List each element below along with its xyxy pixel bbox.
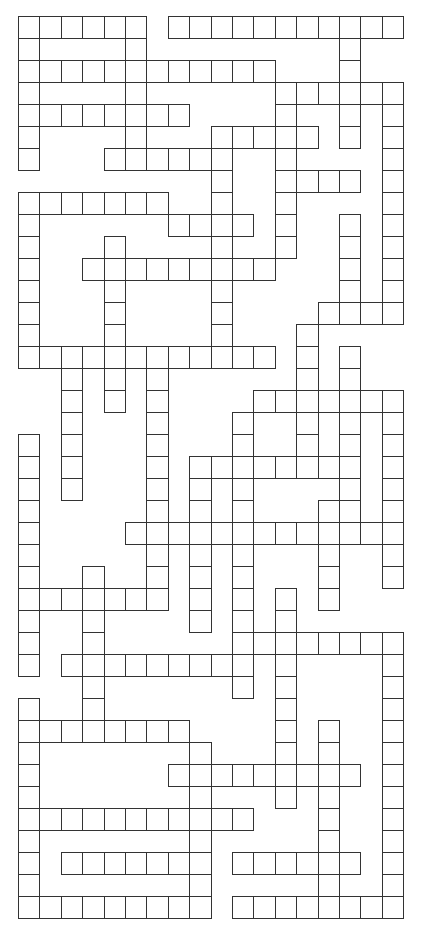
grid-cell[interactable] [232,896,254,919]
grid-cell[interactable] [104,60,126,83]
grid-cell[interactable] [125,588,147,611]
grid-cell[interactable] [82,566,104,589]
grid-cell[interactable] [318,720,340,743]
grid-cell[interactable] [125,720,147,743]
grid-cell[interactable] [275,698,297,721]
grid-cell[interactable] [189,852,211,875]
grid-cell[interactable] [339,852,361,875]
grid-cell[interactable] [104,280,126,303]
grid-cell[interactable] [61,346,83,369]
grid-cell[interactable] [189,654,211,677]
grid-cell[interactable] [318,170,340,193]
grid-cell[interactable] [211,148,233,171]
grid-cell[interactable] [211,808,233,831]
grid-cell[interactable] [168,346,190,369]
grid-cell[interactable] [253,896,275,919]
grid-cell[interactable] [318,632,340,655]
grid-cell[interactable] [125,852,147,875]
grid-cell[interactable] [18,258,40,281]
grid-cell[interactable] [382,412,404,435]
grid-cell[interactable] [168,896,190,919]
grid-cell[interactable] [18,698,40,721]
grid-cell[interactable] [61,104,83,127]
grid-cell[interactable] [82,676,104,699]
grid-cell[interactable] [18,82,40,105]
grid-cell[interactable] [382,126,404,149]
grid-cell[interactable] [189,610,211,633]
grid-cell[interactable] [18,280,40,303]
grid-cell[interactable] [318,742,340,765]
grid-cell[interactable] [104,896,126,919]
grid-cell[interactable] [382,830,404,853]
grid-cell[interactable] [189,896,211,919]
grid-cell[interactable] [382,852,404,875]
grid-cell[interactable] [104,588,126,611]
grid-cell[interactable] [18,214,40,237]
grid-cell[interactable] [61,456,83,479]
grid-cell[interactable] [146,522,168,545]
grid-cell[interactable] [18,654,40,677]
grid-cell[interactable] [211,16,233,39]
grid-cell[interactable] [339,214,361,237]
grid-cell[interactable] [339,258,361,281]
grid-cell[interactable] [339,170,361,193]
grid-cell[interactable] [211,522,233,545]
grid-cell[interactable] [275,632,297,655]
grid-cell[interactable] [275,126,297,149]
grid-cell[interactable] [104,148,126,171]
grid-cell[interactable] [253,456,275,479]
grid-cell[interactable] [189,764,211,787]
grid-cell[interactable] [211,236,233,259]
grid-cell[interactable] [146,390,168,413]
grid-cell[interactable] [232,434,254,457]
grid-cell[interactable] [275,896,297,919]
grid-cell[interactable] [189,258,211,281]
grid-cell[interactable] [232,566,254,589]
grid-cell[interactable] [18,610,40,633]
grid-cell[interactable] [18,104,40,127]
grid-cell[interactable] [82,346,104,369]
grid-cell[interactable] [189,588,211,611]
grid-cell[interactable] [382,390,404,413]
grid-cell[interactable] [18,544,40,567]
grid-cell[interactable] [18,522,40,545]
grid-cell[interactable] [146,60,168,83]
grid-cell[interactable] [275,522,297,545]
grid-cell[interactable] [211,214,233,237]
grid-cell[interactable] [18,16,40,39]
grid-cell[interactable] [18,588,40,611]
grid-cell[interactable] [382,698,404,721]
grid-cell[interactable] [211,170,233,193]
grid-cell[interactable] [104,346,126,369]
grid-cell[interactable] [232,808,254,831]
grid-cell[interactable] [146,192,168,215]
grid-cell[interactable] [146,544,168,567]
grid-cell[interactable] [275,192,297,215]
grid-cell[interactable] [339,368,361,391]
grid-cell[interactable] [125,192,147,215]
grid-cell[interactable] [253,390,275,413]
grid-cell[interactable] [146,566,168,589]
grid-cell[interactable] [232,610,254,633]
grid-cell[interactable] [39,16,61,39]
grid-cell[interactable] [296,346,318,369]
grid-cell[interactable] [189,808,211,831]
grid-cell[interactable] [232,16,254,39]
grid-cell[interactable] [18,786,40,809]
grid-cell[interactable] [168,720,190,743]
grid-cell[interactable] [168,60,190,83]
grid-cell[interactable] [168,214,190,237]
grid-cell[interactable] [18,566,40,589]
grid-cell[interactable] [253,126,275,149]
grid-cell[interactable] [296,82,318,105]
grid-cell[interactable] [232,126,254,149]
grid-cell[interactable] [232,478,254,501]
grid-cell[interactable] [339,412,361,435]
grid-cell[interactable] [82,698,104,721]
grid-cell[interactable] [39,104,61,127]
grid-cell[interactable] [296,16,318,39]
grid-cell[interactable] [61,192,83,215]
grid-cell[interactable] [318,456,340,479]
grid-cell[interactable] [275,588,297,611]
grid-cell[interactable] [296,896,318,919]
